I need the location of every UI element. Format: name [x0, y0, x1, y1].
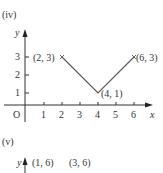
y-tick-1: 1 — [15, 87, 20, 98]
x-tick-1: 1 — [41, 109, 46, 120]
y-tick-3: 3 — [15, 51, 20, 62]
point-markers — [60, 55, 136, 59]
x-tick-3: 3 — [77, 109, 82, 120]
x-tick-2: 2 — [59, 109, 64, 120]
figure: (iv) y x O 1 2 3 4 5 6 1 2 3 (2, 3) (4, … — [0, 0, 163, 173]
y-tick-2: 2 — [15, 69, 20, 80]
x-axis-label: x — [149, 109, 155, 120]
point-label-2-3: (2, 3) — [33, 52, 55, 64]
part-v-label: (v) — [2, 136, 14, 148]
x-tick-6: 6 — [131, 109, 136, 120]
y-arrow-icon — [23, 29, 28, 37]
y-axis-label-v: y — [16, 157, 22, 168]
y-axis-label: y — [14, 27, 20, 38]
point-label-3-6: (3, 6) — [69, 157, 91, 169]
x-tick-5: 5 — [113, 109, 118, 120]
point-label-1-6: (1, 6) — [32, 157, 54, 169]
y-arrow-icon-v — [23, 157, 28, 165]
point-label-4-1: (4, 1) — [101, 88, 123, 100]
y-ticks — [25, 57, 29, 93]
point-label-6-3: (6, 3) — [136, 52, 158, 64]
x-tick-4: 4 — [95, 109, 100, 120]
x-arrow-icon — [145, 103, 153, 108]
v-graph-line — [62, 57, 134, 93]
origin-label: O — [13, 109, 20, 120]
part-iv-label: (iv) — [2, 9, 16, 21]
